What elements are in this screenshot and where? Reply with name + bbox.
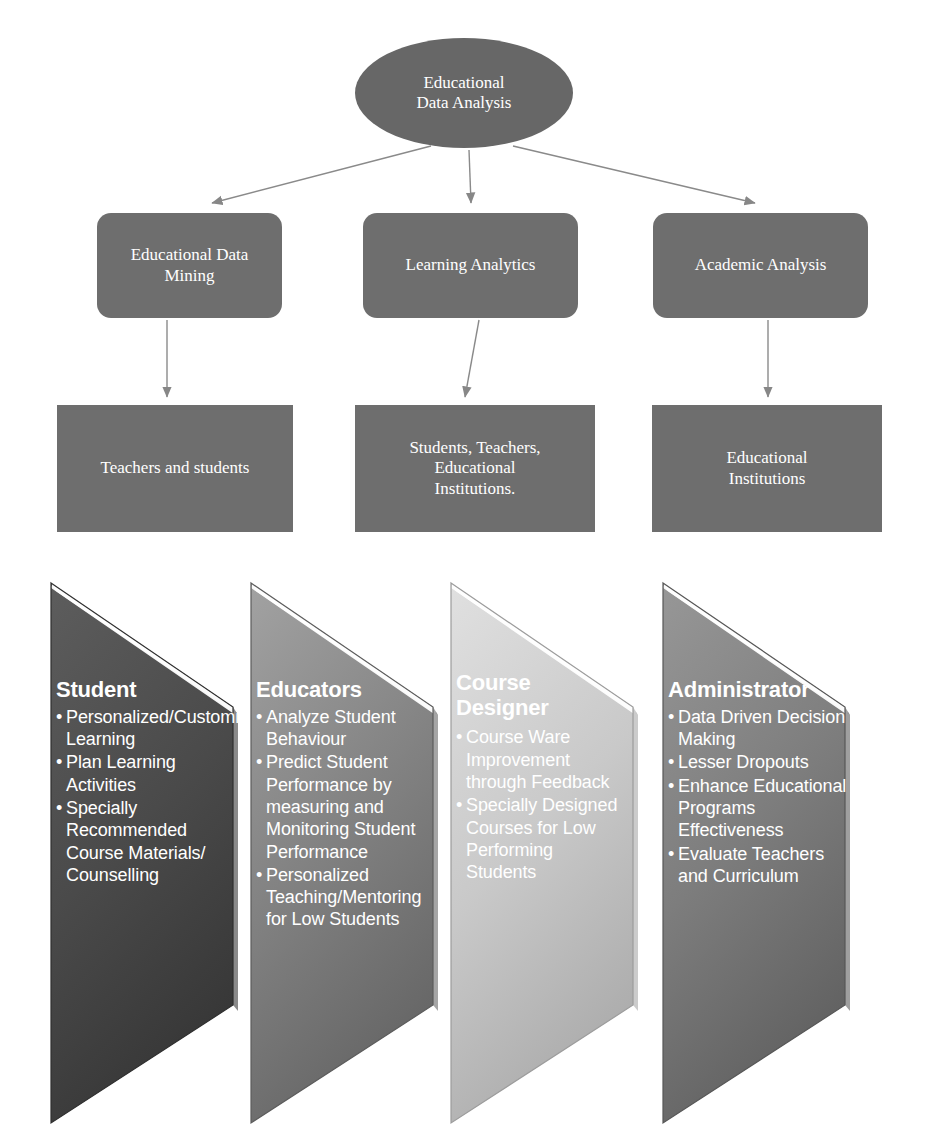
- panel-content: Educators Analyze Student Behaviour Pred…: [256, 678, 428, 932]
- arrow-la-to-target: [465, 320, 479, 397]
- panel-content: Course Designer Course Ware Improvement …: [456, 671, 624, 884]
- panel-educators[interactable]: Educators Analyze Student Behaviour Pred…: [248, 575, 466, 1131]
- panel-title: Educators: [256, 678, 428, 703]
- diagram-root: Educational Data Analysis Educational Da…: [0, 0, 928, 1131]
- panel-bullet-list: Analyze Student Behaviour Predict Studen…: [256, 706, 428, 931]
- arrow-root-to-edm: [212, 146, 431, 203]
- node-label: Academic Analysis: [685, 255, 837, 275]
- list-item: Data Driven Decision Making: [668, 706, 848, 751]
- panel-content: Student Personalized/Customized Learning…: [56, 678, 224, 887]
- arrow-root-to-la: [469, 150, 471, 203]
- node-students-teachers-institutions[interactable]: Students, Teachers, Educational Institut…: [355, 405, 595, 532]
- panel-title: Course Designer: [456, 671, 624, 720]
- list-item: Course Ware Improvement through Feedback: [456, 726, 624, 793]
- node-learning-analytics[interactable]: Learning Analytics: [363, 213, 578, 318]
- panel-administrator[interactable]: Administrator Data Driven Decision Makin…: [660, 575, 878, 1131]
- arrow-root-to-aa: [513, 146, 755, 203]
- panel-title: Administrator: [668, 678, 848, 703]
- list-item: Analyze Student Behaviour: [256, 706, 428, 751]
- node-educational-data-analysis[interactable]: Educational Data Analysis: [355, 38, 573, 148]
- list-item: Specially Recommended Course Materials/ …: [56, 797, 224, 886]
- list-item: Enhance Educational Programs Effectivene…: [668, 775, 848, 842]
- list-item: Predict Student Performance by measuring…: [256, 751, 428, 863]
- list-item: Lesser Dropouts: [668, 751, 848, 773]
- node-academic-analysis[interactable]: Academic Analysis: [653, 213, 868, 318]
- node-teachers-and-students[interactable]: Teachers and students: [57, 405, 293, 532]
- list-item: Plan Learning Activities: [56, 751, 224, 796]
- node-label: Educational Data Mining: [121, 245, 259, 285]
- panel-student[interactable]: Student Personalized/Customized Learning…: [48, 575, 266, 1131]
- node-educational-institutions[interactable]: Educational Institutions: [652, 405, 882, 532]
- node-label: Learning Analytics: [396, 255, 546, 275]
- node-label: Students, Teachers, Educational Institut…: [399, 438, 550, 498]
- node-label: Educational Institutions: [716, 448, 817, 488]
- list-item: Specially Designed Courses for Low Perfo…: [456, 794, 624, 883]
- list-item: Evaluate Teachers and Curriculum: [668, 843, 848, 888]
- list-item: Personalized Teaching/Mentoring for Low …: [256, 864, 428, 931]
- panel-bullet-list: Data Driven Decision Making Lesser Dropo…: [668, 706, 848, 888]
- stakeholder-panel-row: Student Personalized/Customized Learning…: [0, 575, 928, 1131]
- node-label: Educational Data Analysis: [407, 73, 522, 113]
- panel-bullet-list: Course Ware Improvement through Feedback…: [456, 726, 624, 883]
- panel-bullet-list: Personalized/Customized Learning Plan Le…: [56, 706, 224, 887]
- panel-title: Student: [56, 678, 224, 703]
- list-item: Personalized/Customized Learning: [56, 706, 224, 751]
- panel-content: Administrator Data Driven Decision Makin…: [668, 678, 848, 888]
- panel-course-designer[interactable]: Course Designer Course Ware Improvement …: [448, 575, 666, 1131]
- node-educational-data-mining[interactable]: Educational Data Mining: [97, 213, 282, 318]
- node-label: Teachers and students: [91, 458, 260, 478]
